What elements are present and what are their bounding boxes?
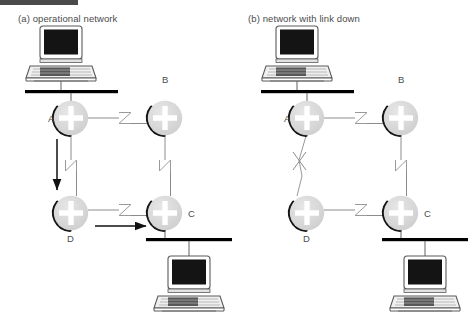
router-icon xyxy=(384,196,418,230)
panel-operational-network: (a) operational network xyxy=(0,0,236,317)
network-diagram-a xyxy=(0,0,236,317)
link-a-b xyxy=(324,113,384,124)
panel-network-with-link-down: (b) network with link down xyxy=(236,0,472,317)
bus-layer xyxy=(25,78,232,256)
router-label-b: B xyxy=(162,74,168,85)
laptop-icon xyxy=(262,26,332,81)
link-b-c xyxy=(160,136,171,196)
router-icon xyxy=(148,196,182,230)
x-cross-icon xyxy=(293,152,306,170)
router-label-d: D xyxy=(67,233,74,244)
router-label-c: C xyxy=(188,208,195,219)
router-icon xyxy=(54,196,88,230)
router-icon xyxy=(148,101,182,135)
router-label-a: A xyxy=(48,113,54,124)
router-icon xyxy=(290,101,324,135)
link-a-b xyxy=(88,113,148,124)
link-b-c xyxy=(396,136,407,196)
laptop-icon xyxy=(390,256,460,311)
bus-layer xyxy=(261,78,468,256)
router-icon xyxy=(384,101,418,135)
router-label-d: D xyxy=(303,233,310,244)
router-label-c: C xyxy=(424,208,431,219)
link-a-d xyxy=(293,136,306,196)
bottom-bus xyxy=(382,238,468,241)
top-bus xyxy=(261,90,354,93)
link-d-c xyxy=(88,205,148,216)
router-icon xyxy=(54,101,88,135)
diagram-stage: A B D C xyxy=(0,0,236,317)
link-a-d xyxy=(66,136,77,196)
link-d-c xyxy=(324,205,384,216)
router-label-a: A xyxy=(284,113,290,124)
diagram-stage: A B D C xyxy=(236,0,472,317)
top-bus xyxy=(25,90,118,93)
router-icon xyxy=(290,196,324,230)
bottom-bus xyxy=(146,238,232,241)
router-label-b: B xyxy=(398,74,404,85)
laptop-icon xyxy=(26,26,96,81)
laptop-icon xyxy=(154,256,224,311)
network-diagram-b xyxy=(236,0,472,317)
